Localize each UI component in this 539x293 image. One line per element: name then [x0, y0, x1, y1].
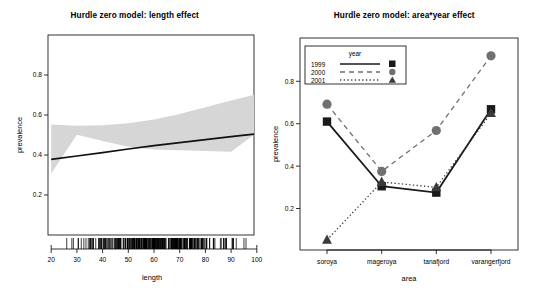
right-x-axis: soroya mageroya tanafjord varangerfjord	[317, 250, 511, 266]
panel-length-effect: Hurdle zero model: length effect	[0, 0, 270, 293]
left-xtick-6: 80	[202, 256, 210, 263]
left-ytick-2: 0.6	[33, 111, 42, 118]
left-ytick-0: 0.2	[33, 191, 42, 198]
marker-2000-varangerfjord	[486, 51, 495, 60]
left-xtick-3: 50	[125, 256, 133, 263]
left-xtick-0: 20	[48, 256, 56, 263]
left-xtick-8: 100	[251, 256, 262, 263]
marker-2000-tanafjord	[431, 126, 440, 135]
marker-2000-mageroya	[377, 167, 386, 176]
right-ytick-0: 0.2	[284, 205, 293, 212]
left-ylabel: prevalence	[15, 117, 24, 153]
left-xtick-5: 70	[176, 256, 184, 263]
marker-2001-soroya	[322, 234, 332, 243]
confidence-band	[51, 94, 257, 173]
panel-area-year-effect: Hurdle zero model: area*year effect 0.2 …	[270, 0, 539, 293]
left-plot-svg: 0.2 0.4 0.6 0.8 prevalence	[0, 0, 269, 293]
legend-label-2001: 2001	[311, 77, 326, 84]
right-ylabel: prevalence	[271, 126, 280, 162]
left-xtick-2: 40	[99, 256, 107, 263]
marker-2000-soroya	[322, 100, 331, 109]
right-y-axis: 0.2 0.4 0.6 0.8	[284, 78, 299, 212]
left-xtick-1: 30	[73, 256, 81, 263]
left-ytick-3: 0.8	[33, 71, 42, 78]
right-xtick-mageroya: mageroya	[367, 258, 397, 266]
marker-1999-soroya	[322, 117, 330, 125]
right-ytick-1: 0.4	[284, 163, 293, 170]
rug-plot	[67, 238, 246, 249]
left-xtick-7: 90	[227, 256, 235, 263]
right-ytick-2: 0.6	[284, 120, 293, 127]
left-ytick-1: 0.4	[33, 151, 42, 158]
legend-title: year	[348, 50, 361, 58]
right-xlabel: area	[401, 274, 417, 283]
right-xtick-soroya: soroya	[317, 258, 337, 266]
legend-label-2000: 2000	[311, 69, 326, 76]
left-xlabel: length	[142, 273, 162, 282]
left-xtick-4: 60	[150, 256, 158, 263]
right-plot-svg: 0.2 0.4 0.6 0.8 prevalence year 1999 200…	[270, 0, 539, 293]
figure-container: Hurdle zero model: length effect	[0, 0, 539, 293]
right-xtick-varangerfjord: varangerfjord	[471, 258, 510, 266]
legend-marker-square-1999	[389, 61, 396, 68]
right-ytick-3: 0.8	[284, 78, 293, 85]
legend-label-1999: 1999	[311, 61, 326, 68]
right-xtick-tanafjord: tanafjord	[423, 258, 449, 266]
series-line-2001	[327, 113, 491, 240]
left-y-axis: 0.2 0.4 0.6 0.8	[33, 71, 48, 198]
legend[interactable]: year 1999 2000 2001	[305, 46, 406, 84]
legend-marker-circle-2000	[389, 69, 395, 75]
